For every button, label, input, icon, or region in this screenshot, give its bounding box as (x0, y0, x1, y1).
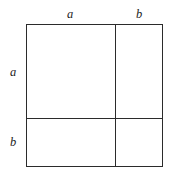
top-segment-label-a: a (62, 8, 78, 21)
horizontal-divider-line (26, 118, 163, 119)
side-segment-label-b: b (5, 136, 21, 149)
vertical-divider-line (115, 24, 116, 167)
top-segment-label-b: b (131, 8, 147, 21)
side-segment-label-a: a (5, 66, 21, 79)
binomial-square-diagram: a b a b (0, 0, 174, 177)
outer-square (26, 24, 163, 167)
